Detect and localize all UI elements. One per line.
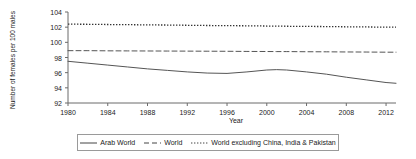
legend-item[interactable]: Arab World bbox=[80, 139, 135, 147]
chart-legend: Arab WorldWorldWorld excluding China, In… bbox=[77, 134, 339, 151]
legend-line-icon bbox=[80, 140, 97, 146]
x-tick-label: 2004 bbox=[299, 109, 315, 116]
legend-label: World bbox=[164, 139, 182, 147]
x-tick-label: 1992 bbox=[179, 109, 195, 116]
legend-line-icon bbox=[144, 140, 161, 146]
legend-item[interactable]: World excluding China, India & Pakistan bbox=[191, 139, 335, 147]
legend-label: Arab World bbox=[100, 139, 135, 147]
x-axis-title-text: Year bbox=[229, 117, 243, 124]
x-tick-label: 1980 bbox=[60, 109, 76, 116]
x-tick-label: 1996 bbox=[219, 109, 235, 116]
line-chart: Number of females per 100 males 10410210… bbox=[0, 0, 416, 159]
x-tick-label: 2012 bbox=[378, 109, 394, 116]
x-tick-label: 1984 bbox=[100, 109, 116, 116]
x-tick-label: 2008 bbox=[339, 109, 355, 116]
legend-line-icon bbox=[191, 140, 208, 146]
legend-item[interactable]: World bbox=[144, 139, 182, 147]
x-tick-label: 1988 bbox=[140, 109, 156, 116]
x-tick-label: 2000 bbox=[259, 109, 275, 116]
legend-label: World excluding China, India & Pakistan bbox=[211, 139, 335, 147]
x-axis-title: Year bbox=[0, 117, 416, 125]
